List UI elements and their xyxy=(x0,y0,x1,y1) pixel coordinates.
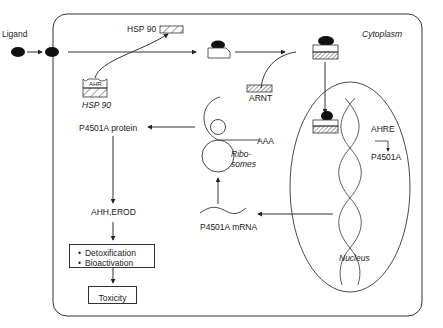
p4501a-mrna-label: P4501A mRNA xyxy=(200,223,257,232)
nucleus-label: Nucleus xyxy=(339,254,370,263)
ligand-ahr-arnt xyxy=(318,36,334,46)
p4501a-gene-label: P4501A xyxy=(371,153,401,162)
mrna-strand xyxy=(200,207,246,213)
ribosome-large-arc xyxy=(204,97,260,140)
diagram-graphics xyxy=(0,0,443,328)
effects-box: Detoxification Bioactivation xyxy=(69,244,155,268)
effect-bioactivation: Bioactivation xyxy=(78,258,154,268)
arnt-protein xyxy=(247,85,272,92)
ahr-pathway-diagram: Ligand HSP 90 AHR HSP 90 ARNT Cytoplasm … xyxy=(0,0,443,328)
ligand-membrane xyxy=(45,47,59,57)
arnt-label: ARNT xyxy=(249,94,272,103)
ribosomes-label-1: Ribo- xyxy=(231,150,251,159)
effect-detoxification: Detoxification xyxy=(78,248,154,258)
p4501a-protein-label: P4501A protein xyxy=(79,124,137,133)
ahr-label: AHR xyxy=(89,81,102,87)
cytoplasm-label: Cytoplasm xyxy=(362,30,402,39)
ligand-outside xyxy=(11,47,25,57)
hsp90-released xyxy=(160,26,183,33)
ribosome-large xyxy=(202,140,234,172)
ahh-erod-label: AHH,EROD xyxy=(91,208,136,217)
toxicity-label: Toxicity xyxy=(99,294,127,303)
ribosome-small xyxy=(211,120,226,135)
aaa-label: AAA xyxy=(257,137,274,146)
hsp90-top-label: HSP 90 xyxy=(127,25,156,34)
ribosomes-label-2: somes xyxy=(231,160,256,169)
toxicity-box: Toxicity xyxy=(88,286,137,304)
hsp90-bottom-label: HSP 90 xyxy=(82,101,111,110)
ahre-label: AHRE xyxy=(371,125,395,134)
ligand-label: Ligand xyxy=(2,30,28,39)
